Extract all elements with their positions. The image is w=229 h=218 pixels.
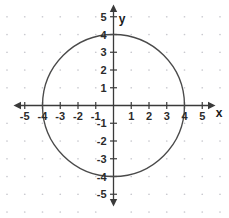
grid-dot [6,16,8,18]
grid-dot [201,87,203,89]
grid-dot [59,122,61,124]
grid-dot [219,140,221,142]
grid-dot [184,34,186,36]
grid-dot [24,87,26,89]
grid-dot [42,211,44,213]
grid-dot [24,158,26,160]
grid-dot [166,16,168,18]
graph-canvas: -5-4-3-2-112345-5-4-3-2-112345 x y [0,0,229,218]
grid-dot [166,122,168,124]
grid-dot [24,140,26,142]
grid-dot [166,34,168,36]
grid-dot [95,211,97,213]
grid-dot [6,140,8,142]
grid-dot [148,16,150,18]
x-tick-label: -3 [55,110,65,122]
grid-dot [24,122,26,124]
x-tick-label: 5 [199,110,205,122]
grid-dot [42,193,44,195]
grid-dot [59,158,61,160]
grid-dot [6,69,8,71]
grid-dot [6,51,8,53]
grid-dot [6,158,8,160]
grid-dot [59,51,61,53]
grid-dot [95,87,97,89]
x-tick-label: -4 [38,110,49,122]
grid-dot [201,122,203,124]
coordinate-plane-figure: -5-4-3-2-112345-5-4-3-2-112345 x y [0,0,229,218]
grid-dot [77,193,79,195]
grid-dot [184,87,186,89]
grid-dot [184,158,186,160]
grid-dot [42,34,44,36]
grid-dot [130,16,132,18]
y-tick-label: -3 [97,153,107,165]
grid-dot [184,211,186,213]
grid-dot [24,16,26,18]
grid-dot [148,34,150,36]
x-tick-label: 2 [146,110,152,122]
grid-dot [95,16,97,18]
grid-dot [59,140,61,142]
grid-dot [219,69,221,71]
x-tick-label: 3 [164,110,170,122]
grid-dot [201,34,203,36]
grid-dot [24,34,26,36]
grid-dot [6,176,8,178]
y-tick-label: -1 [97,117,107,129]
grid-dot [77,51,79,53]
grid-dot [184,122,186,124]
grid-dot [130,158,132,160]
grid-dot [42,87,44,89]
grid-dot [148,122,150,124]
grid-dot [201,193,203,195]
grid-dot [148,69,150,71]
grid-dot [148,158,150,160]
grid-dot [130,176,132,178]
grid-dot [59,16,61,18]
grid-dot [166,140,168,142]
grid-dot [42,158,44,160]
grid-dot [201,158,203,160]
grid-dot [166,211,168,213]
grid-dot [24,51,26,53]
grid-dot [130,122,132,124]
grid-dot [219,16,221,18]
grid-dot [77,158,79,160]
grid-dot [130,34,132,36]
grid-dot [201,140,203,142]
grid-dot [201,211,203,213]
grid-dot [130,51,132,53]
y-tick-label: 1 [100,82,106,94]
grid-dot [166,193,168,195]
y-tick-label: -4 [97,171,108,183]
grid-dot [219,211,221,213]
grid-dot [6,122,8,124]
grid-dot [59,34,61,36]
grid-dot [95,69,97,71]
grid-dot [184,193,186,195]
y-tick-label: -5 [97,188,107,200]
grid-dot [6,193,8,195]
grid-dot [201,51,203,53]
grid-dot [148,176,150,178]
grid-dot [184,51,186,53]
grid-dot [184,140,186,142]
grid-dot [59,211,61,213]
grid-dot [77,176,79,178]
grid-dot [6,34,8,36]
grid-dot [77,211,79,213]
grid-dot [166,69,168,71]
grid-dot [42,16,44,18]
grid-dot [130,211,132,213]
y-tick-label: 5 [100,11,106,23]
grid-dot [219,122,221,124]
grid-dot [42,69,44,71]
grid-dot [130,193,132,195]
grid-dot [24,193,26,195]
grid-dot [148,211,150,213]
grid-dot [77,69,79,71]
grid-dot [24,69,26,71]
grid-dot [219,51,221,53]
grid-dot [42,51,44,53]
